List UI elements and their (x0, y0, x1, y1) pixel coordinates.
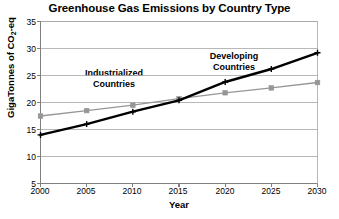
data-point-industrialized-2025 (269, 86, 274, 91)
data-point-industrialized-2000 (38, 114, 43, 119)
chart-container: Greenhouse Gas Emissions by Country Type… (0, 0, 339, 219)
series-line-developing (41, 53, 318, 135)
data-point-developing-2010 (130, 109, 136, 115)
data-point-industrialized-2030 (315, 80, 320, 85)
data-point-developing-2000 (38, 132, 44, 138)
data-point-developing-2030 (315, 50, 321, 56)
data-point-industrialized-2005 (84, 108, 89, 113)
gridlines (41, 22, 318, 157)
data-point-industrialized-2020 (223, 90, 228, 95)
series-developing (38, 50, 321, 138)
plot-area (0, 0, 339, 219)
data-point-industrialized-2010 (131, 103, 136, 108)
series-layer (38, 50, 321, 138)
data-point-developing-2005 (84, 121, 90, 127)
data-point-developing-2025 (268, 66, 274, 72)
